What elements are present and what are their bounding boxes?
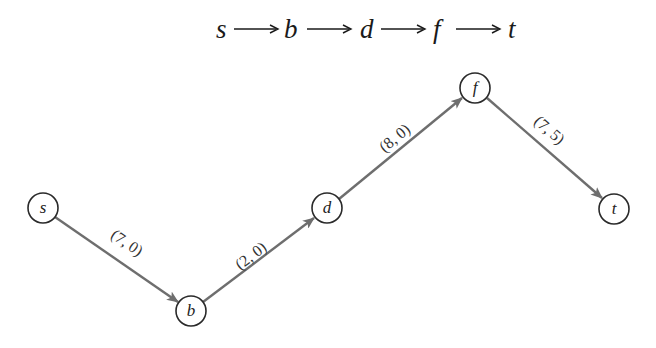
flow-graph: (7, 0) (2, 0) (8, 0) (7, 5) s b d f t	[0, 0, 656, 348]
edge-s-b: (7, 0)	[55, 217, 178, 302]
edge-label-s-b: (7, 0)	[107, 226, 146, 260]
node-f: f	[460, 73, 490, 103]
node-label-s: s	[40, 198, 47, 217]
edge-b-d: (2, 0)	[203, 218, 314, 302]
node-label-b: b	[187, 301, 196, 320]
edge-label-d-f: (8, 0)	[376, 120, 414, 156]
node-b: b	[176, 296, 206, 326]
edge-label-f-t: (7, 5)	[530, 112, 568, 148]
edge-d-f: (8, 0)	[339, 98, 462, 199]
node-t: t	[599, 194, 629, 224]
node-s: s	[28, 193, 58, 223]
node-d: d	[312, 193, 342, 223]
node-label-d: d	[323, 198, 332, 217]
edge-f-t: (7, 5)	[487, 98, 602, 198]
